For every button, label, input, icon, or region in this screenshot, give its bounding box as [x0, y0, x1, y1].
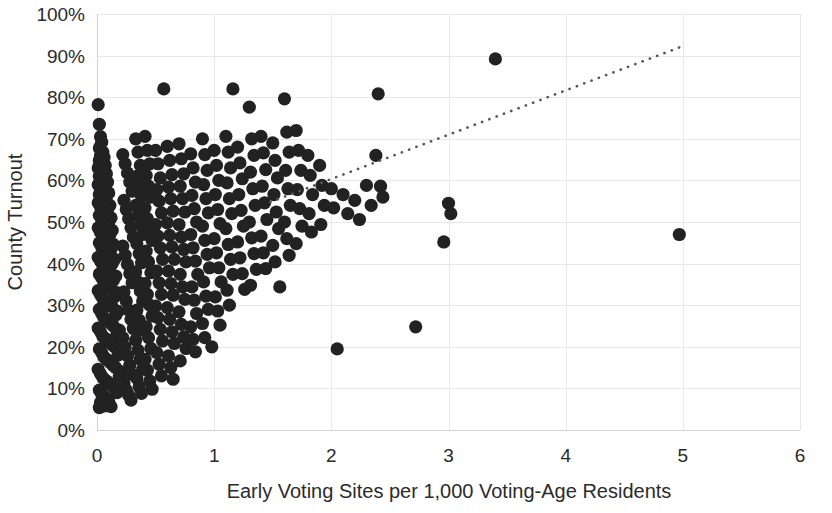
data-point	[150, 346, 163, 359]
data-point	[197, 178, 210, 191]
data-point	[149, 299, 162, 312]
data-point	[151, 311, 164, 324]
data-point	[162, 264, 175, 277]
data-point	[168, 253, 181, 266]
data-point	[304, 169, 317, 182]
data-point	[325, 182, 338, 195]
data-point	[341, 207, 354, 220]
data-point	[372, 87, 385, 100]
data-point	[140, 245, 153, 258]
data-point	[140, 320, 153, 333]
data-point	[353, 213, 366, 226]
scatter-chart: 0%10%20%30%40%50%60%70%80%90%100% 012345…	[0, 0, 832, 513]
data-point	[197, 275, 210, 288]
data-point	[162, 180, 175, 193]
data-point	[167, 373, 180, 386]
data-point	[184, 320, 197, 333]
data-point	[673, 228, 686, 241]
y-tick-label: 50%	[47, 212, 85, 233]
x-tick-label: 6	[795, 445, 806, 466]
data-point	[444, 207, 457, 220]
x-axis-title: Early Voting Sites per 1,000 Voting-Age …	[227, 480, 672, 502]
x-tick-label: 2	[326, 445, 337, 466]
data-point	[279, 164, 292, 177]
y-tick-label: 30%	[47, 295, 85, 316]
data-point	[232, 188, 245, 201]
data-point	[209, 188, 222, 201]
data-point	[489, 52, 502, 65]
data-point	[243, 215, 256, 228]
data-point	[145, 383, 158, 396]
data-point	[153, 276, 166, 289]
data-point	[278, 215, 291, 228]
data-point	[256, 180, 269, 193]
data-point	[185, 189, 198, 202]
chart-canvas: 0%10%20%30%40%50%60%70%80%90%100% 012345…	[0, 0, 832, 513]
data-point	[209, 290, 222, 303]
data-point	[331, 342, 344, 355]
data-point	[409, 320, 422, 333]
data-point	[184, 147, 197, 160]
data-point	[348, 194, 361, 207]
data-point	[314, 218, 327, 231]
data-point	[290, 124, 303, 137]
data-point	[150, 264, 163, 277]
data-point	[327, 201, 340, 214]
data-point	[174, 268, 187, 281]
data-point	[92, 98, 105, 111]
data-point	[254, 230, 267, 243]
data-point	[205, 340, 218, 353]
data-point	[283, 249, 296, 262]
y-tick-label: 80%	[47, 87, 85, 108]
data-point	[161, 301, 174, 314]
x-tick-label: 4	[560, 445, 571, 466]
data-point	[336, 188, 349, 201]
data-point	[210, 246, 223, 259]
y-tick-label: 100%	[36, 4, 85, 25]
data-point	[149, 218, 162, 231]
data-point	[161, 140, 174, 153]
data-point	[154, 323, 167, 336]
data-point	[161, 216, 174, 229]
data-point	[374, 180, 387, 193]
data-point	[186, 241, 199, 254]
data-point	[141, 288, 154, 301]
data-point	[290, 237, 303, 250]
data-point	[172, 305, 185, 318]
data-point	[233, 156, 246, 169]
data-point	[266, 239, 279, 252]
y-axis-title: County Turnout	[4, 153, 26, 290]
data-point	[243, 101, 256, 114]
data-point	[196, 132, 209, 145]
data-point	[313, 159, 326, 172]
data-point	[376, 190, 389, 203]
data-point	[220, 284, 233, 297]
data-point	[213, 319, 226, 332]
data-point	[155, 288, 168, 301]
data-point	[211, 203, 224, 216]
data-point	[244, 279, 257, 292]
data-point	[196, 220, 209, 233]
y-tick-label: 20%	[47, 337, 85, 358]
data-point	[162, 349, 175, 362]
data-point	[273, 280, 286, 293]
y-tick-label: 10%	[47, 378, 85, 399]
data-point	[165, 240, 178, 253]
data-point	[231, 235, 244, 248]
data-point	[360, 179, 373, 192]
data-point	[266, 136, 279, 149]
data-point	[153, 195, 166, 208]
data-point	[157, 82, 170, 95]
data-point	[172, 218, 185, 231]
data-point	[244, 165, 257, 178]
data-point	[186, 333, 199, 346]
data-point	[174, 180, 187, 193]
data-point	[156, 253, 169, 266]
x-tick-label: 1	[209, 445, 220, 466]
data-point	[211, 304, 224, 317]
x-tick-label: 3	[443, 445, 454, 466]
data-point	[163, 154, 176, 167]
y-tick-label: 70%	[47, 129, 85, 150]
data-point	[278, 92, 291, 105]
data-point	[212, 261, 225, 274]
